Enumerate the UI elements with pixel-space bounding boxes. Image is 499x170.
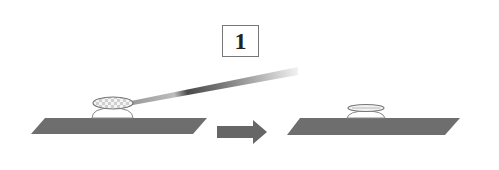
panel-before <box>31 67 298 134</box>
process-arrow-icon <box>217 120 267 144</box>
droplet-at-tip <box>93 97 133 109</box>
substrate-right <box>287 118 460 135</box>
step-number: 1 <box>235 29 247 53</box>
diagram-canvas: 1 <box>0 0 499 170</box>
substrate-left <box>31 118 207 134</box>
step-number-box: 1 <box>222 25 259 57</box>
panel-after <box>287 105 460 136</box>
pipette-needle <box>131 67 298 105</box>
